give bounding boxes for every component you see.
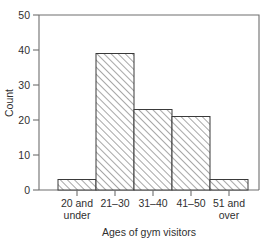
y-tick-label-50: 50 <box>18 9 30 21</box>
x-label-51-and-over-line2: over <box>219 209 240 221</box>
chart-canvas: 0 10 20 30 40 50 20 and under 21– <box>0 0 277 244</box>
bar-31-40[interactable] <box>134 110 172 191</box>
x-label-20-and-under-line2: under <box>64 209 91 221</box>
x-axis-ticks <box>77 190 229 196</box>
x-label-21-30: 21–30 <box>100 197 129 209</box>
y-tick-label-30: 30 <box>18 79 30 91</box>
x-label-41-50: 41–50 <box>176 197 205 209</box>
y-axis-ticks <box>33 15 39 190</box>
histogram-chart: 0 10 20 30 40 50 20 and under 21– <box>0 0 277 244</box>
x-label-31-40: 31–40 <box>138 197 167 209</box>
y-tick-label-40: 40 <box>18 44 30 56</box>
y-tick-label-10: 10 <box>18 149 30 161</box>
bar-21-30[interactable] <box>96 54 134 191</box>
x-axis-category-labels: 20 and under 21–30 31–40 41–50 51 and ov… <box>61 197 245 221</box>
bar-41-50[interactable] <box>172 117 210 191</box>
y-tick-label-0: 0 <box>24 184 30 196</box>
y-axis-tick-labels: 0 10 20 30 40 50 <box>18 9 30 196</box>
y-axis-title: Count <box>3 89 15 117</box>
y-tick-label-20: 20 <box>18 114 30 126</box>
x-label-20-and-under-line1: 20 and <box>61 197 93 209</box>
x-label-51-and-over-line1: 51 and <box>213 197 245 209</box>
bar-51-and-over[interactable] <box>210 180 248 191</box>
bar-20-and-under[interactable] <box>58 180 96 191</box>
x-axis-title: Ages of gym visitors <box>102 226 196 238</box>
